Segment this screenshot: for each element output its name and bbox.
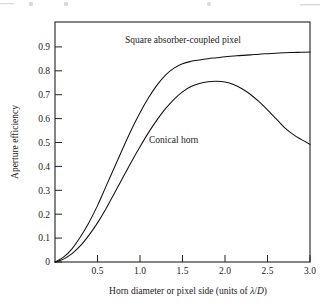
y-axis-tick-labels: 0 0.1 0.2 0.3 0.4 0.5 0.6 0.7 0.8 0.9: [38, 42, 50, 267]
series-square-absorber-coupled-pixel: [55, 52, 310, 262]
y-tick-label: 0.8: [38, 66, 50, 76]
figure-container: 0 0.1 0.2 0.3 0.4 0.5 0.6 0.7 0.8 0.9 0.…: [0, 0, 329, 308]
y-tick-label: 0.2: [38, 210, 50, 220]
y-tick-label: 0.6: [38, 114, 50, 124]
y-tick-label: 0: [45, 257, 50, 267]
x-axis-title: Horn diameter or pixel side (units of λ/…: [109, 286, 267, 297]
paren-close: ): [264, 286, 267, 297]
y-axis-title: Aperture efficiency: [10, 105, 20, 179]
series-conical-horn: [55, 81, 310, 262]
x-axis-ticks: [98, 255, 311, 262]
annotation-square-absorber-coupled-pixel: Square absorber-coupled pixel: [125, 35, 241, 45]
y-tick-label: 0.4: [38, 162, 50, 172]
y-axis-ticks: [55, 47, 62, 262]
y-tick-label: 0.7: [38, 90, 50, 100]
y-tick-label: 0.1: [38, 233, 50, 243]
x-tick-label: 2.5: [262, 266, 274, 276]
x-tick-label: 1.5: [177, 266, 189, 276]
y-tick-label: 0.5: [38, 138, 50, 148]
d-symbol: D: [256, 286, 264, 296]
y-tick-label: 0.3: [38, 186, 50, 196]
annotation-conical-horn: Conical horn: [149, 135, 199, 145]
x-tick-label: 1.0: [134, 266, 146, 276]
y-tick-label: 0.9: [38, 42, 50, 52]
aperture-efficiency-chart: 0 0.1 0.2 0.3 0.4 0.5 0.6 0.7 0.8 0.9 0.…: [0, 0, 329, 308]
x-tick-label: 0.5: [92, 266, 104, 276]
x-tick-label: 3.0: [304, 266, 316, 276]
x-axis-tick-labels: 0.5 1.0 1.5 2.0 2.5 3.0: [92, 266, 317, 276]
x-axis-title-text: Horn diameter or pixel side (units of: [109, 286, 250, 297]
scan-artifacts: [0, 2, 320, 6]
series-curves: [55, 52, 310, 262]
x-tick-label: 2.0: [219, 266, 231, 276]
